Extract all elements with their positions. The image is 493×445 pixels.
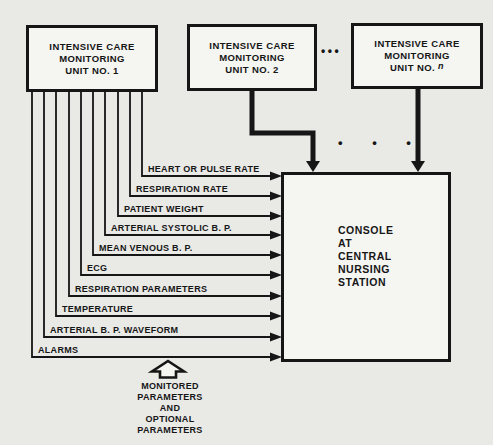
console-line-2: AT [338, 237, 393, 250]
unit-2-line-3: UNIT NO. 2 [225, 64, 279, 76]
param-label-heart-or-pulse-rate: HEART OR PULSE RATE [148, 164, 260, 174]
unit-n-line-1: INTENSIVE CARE [374, 38, 459, 50]
param-label-respiration-rate: RESPIRATION RATE [136, 184, 228, 194]
console-label: CONSOLE AT CENTRAL NURSING STATION [338, 224, 393, 289]
unit-n-to-console-arrow [411, 87, 425, 172]
param-label-respiration-parameters: RESPIRATION PARAMETERS [75, 284, 207, 294]
diagram-canvas: INTENSIVE CARE MONITORING UNIT NO. 1 INT… [0, 0, 493, 445]
unit-n-number-prefix: UNIT NO. [390, 62, 435, 73]
param-label-patient-weight: PATIENT WEIGHT [124, 204, 204, 214]
unit-n-line-3: UNIT NO.n [390, 62, 444, 74]
param-label-alarms: ALARMS [38, 345, 78, 355]
unit-2-line-1: INTENSIVE CARE [209, 40, 294, 52]
unit-1-label: INTENSIVE CARE MONITORING UNIT NO. 1 [26, 25, 158, 92]
console-line-4: NURSING [338, 263, 393, 276]
ellipsis-above-console: • • • [338, 135, 424, 150]
monitored-parameters-arrow-icon [152, 361, 184, 378]
unit-n-label: INTENSIVE CARE MONITORING UNIT NO.n [351, 23, 483, 89]
param-label-ecg: ECG [87, 263, 107, 273]
unit-2-label: INTENSIVE CARE MONITORING UNIT NO. 2 [187, 24, 317, 91]
unit-n-variable: n [438, 61, 444, 71]
unit-1-line-1: INTENSIVE CARE [49, 41, 134, 53]
console-line-3: CENTRAL [338, 250, 393, 263]
unit-1-line-3: UNIT NO. 1 [65, 65, 119, 77]
console-line-5: STATION [338, 276, 393, 289]
param-label-mean-venous-bp: MEAN VENOUS B. P. [99, 243, 192, 253]
unit-2-to-console-arrow [252, 89, 320, 172]
param-label-arterial-systolic-bp: ARTERIAL SYSTOLIC B. P. [111, 223, 232, 233]
ellipsis-between-units: ••• [321, 44, 341, 58]
param-label-temperature: TEMPERATURE [62, 304, 133, 314]
monitored-parameters-caption: MONITORED PARAMETERS AND OPTIONAL PARAME… [110, 381, 230, 436]
unit-2-line-2: MONITORING [219, 52, 285, 64]
unit-1-line-2: MONITORING [59, 53, 125, 65]
console-line-1: CONSOLE [338, 224, 393, 237]
param-label-arterial-bp-waveform: ARTERIAL B. P. WAVEFORM [50, 325, 178, 335]
